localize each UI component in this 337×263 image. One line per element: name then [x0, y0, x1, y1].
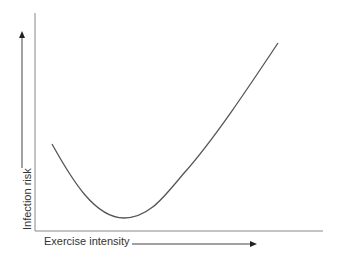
- y-axis-label: Infection risk: [21, 168, 33, 230]
- chart-canvas: [0, 0, 337, 263]
- up-arrow-icon: [19, 31, 25, 38]
- x-axis-label: Exercise intensity: [44, 235, 130, 247]
- right-arrow-icon: [250, 241, 257, 247]
- infection-risk-curve: [52, 43, 278, 218]
